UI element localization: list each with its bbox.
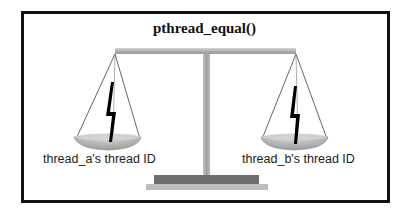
balance-scale bbox=[0, 0, 409, 212]
scale-base-top bbox=[154, 175, 259, 184]
lightning-bolt-icon bbox=[106, 82, 116, 142]
right-pan-assembly bbox=[261, 54, 328, 150]
scale-post bbox=[203, 51, 210, 176]
scale-beam bbox=[115, 48, 296, 54]
left-pan-assembly bbox=[74, 54, 141, 150]
scale-base-bottom bbox=[146, 184, 268, 190]
right-pan-label: thread_b's thread ID bbox=[242, 152, 355, 166]
left-pan-label: thread_a's thread ID bbox=[43, 152, 156, 166]
